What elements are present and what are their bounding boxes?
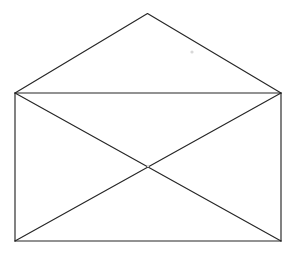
paper-speck	[190, 50, 193, 53]
paper-speck	[147, 165, 149, 167]
figure-canvas	[0, 0, 294, 254]
drawing-background	[0, 0, 294, 254]
envelope-line-drawing	[0, 0, 294, 254]
